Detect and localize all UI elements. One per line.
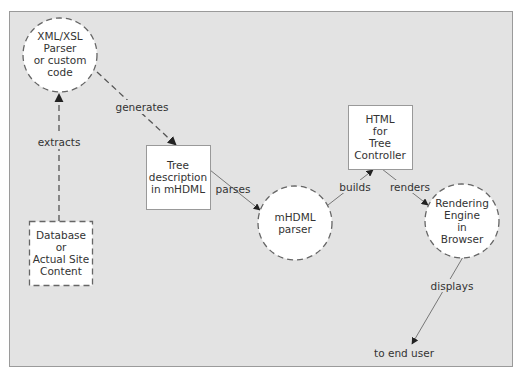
- label-generates: generates: [115, 100, 168, 114]
- node-rendering-engine: Rendering Engine in Browser: [425, 184, 499, 258]
- svg-text:extracts: extracts: [38, 136, 81, 148]
- node-html-line-1: HTML: [365, 113, 394, 125]
- node-database-line-4: Content: [40, 265, 82, 277]
- label-extracts: extracts: [38, 135, 81, 149]
- svg-text:renders: renders: [390, 181, 430, 193]
- svg-text:displays: displays: [431, 280, 474, 292]
- node-mhdml-parser: mHDML parser: [258, 186, 332, 260]
- label-renders: renders: [390, 180, 430, 193]
- node-xml-parser: XML/XSL Parser or custom code: [23, 18, 97, 92]
- node-tree-description-line-1: Tree: [166, 159, 189, 171]
- node-xml-parser-line-3: or custom: [34, 54, 87, 66]
- node-database-line-3: Actual Site: [33, 253, 89, 265]
- node-html-line-2: for: [373, 125, 388, 137]
- label-parses: parses: [216, 183, 251, 195]
- node-database-line-1: Database: [36, 229, 86, 241]
- node-html-line-3: Tree: [368, 137, 391, 149]
- node-tree-description-line-2: description: [149, 171, 207, 183]
- node-html-line-4: Controller: [354, 149, 406, 161]
- node-rendering-line-3: in: [457, 221, 467, 233]
- label-displays: displays: [431, 279, 474, 292]
- diagram-canvas: XML/XSL Parser or custom code Database o…: [0, 0, 521, 377]
- node-rendering-line-2: Engine: [444, 209, 480, 221]
- node-html-tree-controller: HTML for Tree Controller: [349, 106, 413, 170]
- svg-text:generates: generates: [115, 101, 168, 113]
- label-builds: builds: [339, 180, 371, 193]
- node-mhdml-parser-line-1: mHDML: [274, 211, 315, 223]
- node-xml-parser-line-1: XML/XSL: [37, 30, 82, 42]
- node-rendering-line-1: Rendering: [435, 197, 489, 209]
- node-tree-description-line-3: in mHDML: [151, 183, 205, 195]
- node-tree-description: Tree description in mHDML: [147, 146, 211, 210]
- node-database: Database or Actual Site Content: [30, 222, 93, 286]
- node-end-user: to end user: [374, 347, 435, 359]
- node-database-line-2: or: [56, 241, 67, 253]
- node-mhdml-parser-line-2: parser: [278, 223, 312, 235]
- svg-text:builds: builds: [339, 181, 370, 193]
- node-xml-parser-line-2: Parser: [44, 42, 78, 54]
- node-rendering-line-4: Browser: [441, 233, 484, 245]
- node-xml-parser-line-4: code: [47, 66, 72, 78]
